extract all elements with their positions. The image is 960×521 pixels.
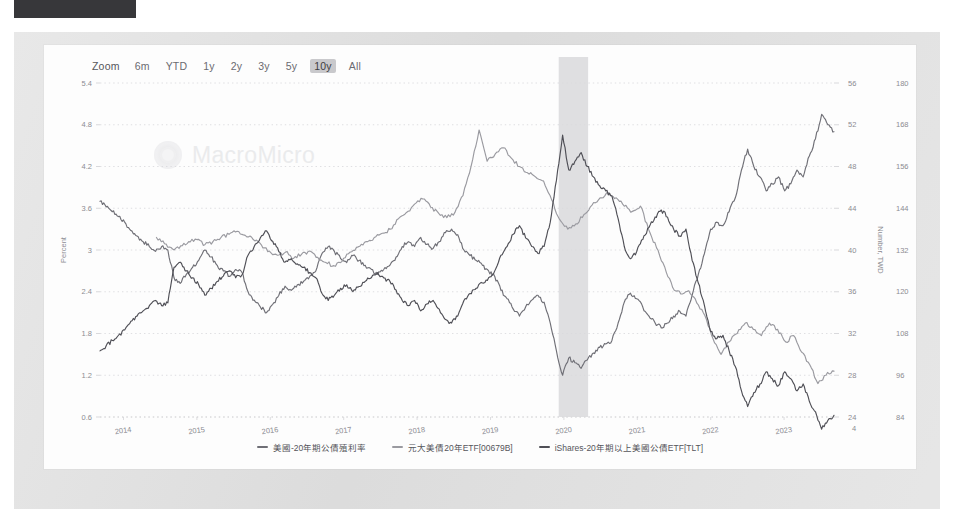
svg-text:56: 56	[848, 79, 856, 88]
svg-text:3.6: 3.6	[82, 204, 92, 213]
svg-text:3: 3	[88, 246, 92, 255]
svg-text:Number, TWD: Number, TWD	[876, 226, 885, 274]
window-top-bar	[14, 0, 136, 18]
chart-card: Zoom 6m YTD 1y 2y 3y 5y 10y All MacroMic…	[44, 45, 916, 469]
svg-text:108: 108	[896, 329, 909, 338]
svg-text:2020: 2020	[555, 425, 573, 436]
svg-text:48: 48	[848, 162, 856, 171]
svg-text:0.6: 0.6	[82, 413, 92, 422]
svg-text:96: 96	[896, 371, 904, 380]
svg-text:4: 4	[852, 424, 856, 433]
svg-text:1.2: 1.2	[82, 371, 92, 380]
chart-legend[interactable]: 美國-20年期公債殖利率 元大美債20年ETF[00679B] iShares-…	[44, 441, 916, 453]
series-line	[100, 114, 834, 375]
svg-text:4.2: 4.2	[82, 162, 92, 171]
svg-text:2022: 2022	[701, 425, 719, 436]
legend-dash-icon	[539, 446, 550, 448]
chart-plot-area: 5.44.84.23.632.41.81.20.6Percent56524844…	[44, 45, 916, 469]
svg-text:120: 120	[896, 287, 909, 296]
svg-text:2016: 2016	[261, 425, 279, 436]
svg-text:144: 144	[896, 204, 909, 213]
svg-text:2019: 2019	[481, 425, 499, 436]
legend-label-treasury-yield: 美國-20年期公債殖利率	[273, 441, 366, 453]
svg-text:132: 132	[896, 246, 909, 255]
svg-text:40: 40	[848, 246, 856, 255]
svg-text:84: 84	[896, 413, 904, 422]
svg-text:2015: 2015	[188, 425, 206, 436]
svg-text:32: 32	[848, 329, 856, 338]
svg-text:Percent: Percent	[59, 236, 68, 263]
svg-text:5.4: 5.4	[82, 79, 92, 88]
legend-item-00679b[interactable]: 元大美債20年ETF[00679B]	[392, 441, 513, 453]
svg-text:44: 44	[848, 204, 856, 213]
svg-text:2.4: 2.4	[82, 287, 92, 296]
svg-text:52: 52	[848, 120, 856, 129]
photo-frame: Zoom 6m YTD 1y 2y 3y 5y 10y All MacroMic…	[0, 0, 960, 521]
line-chart: 5.44.84.23.632.41.81.20.6Percent56524844…	[44, 45, 916, 469]
svg-text:2014: 2014	[114, 425, 132, 436]
svg-text:2023: 2023	[775, 425, 793, 436]
legend-dash-icon	[392, 446, 403, 448]
svg-text:168: 168	[896, 120, 909, 129]
legend-label-tlt: iShares-20年期以上美國公債ETF[TLT]	[555, 441, 703, 453]
svg-text:24: 24	[848, 413, 856, 422]
svg-text:2018: 2018	[408, 425, 426, 436]
svg-text:180: 180	[896, 79, 909, 88]
svg-text:2017: 2017	[334, 425, 352, 436]
svg-text:36: 36	[848, 287, 856, 296]
legend-dash-icon	[257, 446, 268, 448]
svg-text:2021: 2021	[628, 425, 646, 436]
legend-label-00679b: 元大美債20年ETF[00679B]	[408, 441, 513, 453]
svg-text:28: 28	[848, 371, 856, 380]
legend-item-tlt[interactable]: iShares-20年期以上美國公債ETF[TLT]	[539, 441, 703, 453]
svg-text:1.8: 1.8	[82, 329, 92, 338]
svg-text:156: 156	[896, 162, 909, 171]
svg-text:4.8: 4.8	[82, 120, 92, 129]
legend-item-treasury-yield[interactable]: 美國-20年期公債殖利率	[257, 441, 366, 453]
series-line	[156, 130, 834, 384]
